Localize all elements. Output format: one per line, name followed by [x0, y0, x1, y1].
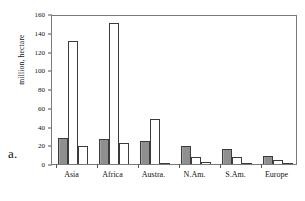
x-tick-label: Europe	[265, 170, 288, 179]
y-tick-label: 60	[38, 105, 45, 113]
bar	[263, 156, 273, 164]
y-tick-label: 40	[38, 124, 45, 132]
x-axis-tick-labels: AsiaAfricaAustra.N.Am.S.Am.Europe	[51, 170, 297, 184]
bar	[160, 163, 170, 164]
x-tick-label: Asia	[64, 170, 79, 179]
bar-group	[93, 16, 134, 164]
bar-group	[216, 16, 257, 164]
x-tick-mark	[138, 164, 139, 168]
bar	[283, 163, 293, 164]
x-tick-label: S.Am.	[225, 170, 245, 179]
figure-panel: a. million, hectare 02040608010012014016…	[0, 0, 305, 201]
bar-group	[134, 16, 175, 164]
x-tick-label: N.Am.	[184, 170, 206, 179]
y-tick-label: 20	[38, 142, 45, 150]
bar	[273, 160, 283, 164]
x-tick-mark	[220, 164, 221, 168]
bar	[99, 139, 109, 164]
bar	[119, 143, 129, 164]
bar	[78, 146, 88, 164]
bar	[242, 163, 252, 164]
bar	[109, 23, 119, 164]
x-tick-mark	[56, 164, 57, 168]
bar	[68, 41, 78, 164]
x-tick-mark	[97, 164, 98, 168]
bars-container	[52, 16, 296, 164]
plot-area	[51, 15, 297, 165]
y-tick-label: 0	[42, 161, 46, 169]
bar-group	[175, 16, 216, 164]
bar	[201, 162, 211, 164]
x-tick-label: Austra.	[142, 170, 165, 179]
bar-group	[52, 16, 93, 164]
bar	[222, 149, 232, 164]
bar	[140, 141, 150, 164]
x-tick-label: Africa	[102, 170, 122, 179]
panel-letter: a.	[8, 146, 18, 162]
y-tick-label: 140	[35, 30, 46, 38]
bar	[232, 157, 242, 164]
x-tick-mark	[179, 164, 180, 168]
y-axis-tick-labels: 020406080100120140160	[24, 10, 48, 170]
y-tick-label: 160	[35, 11, 46, 19]
bar	[150, 119, 160, 164]
bar	[58, 138, 68, 164]
bar	[191, 157, 201, 164]
y-tick-label: 80	[38, 86, 45, 94]
bar	[181, 146, 191, 164]
bar-group	[257, 16, 298, 164]
y-tick-label: 100	[35, 67, 46, 75]
y-tick-label: 120	[35, 49, 46, 57]
x-tick-mark	[261, 164, 262, 168]
